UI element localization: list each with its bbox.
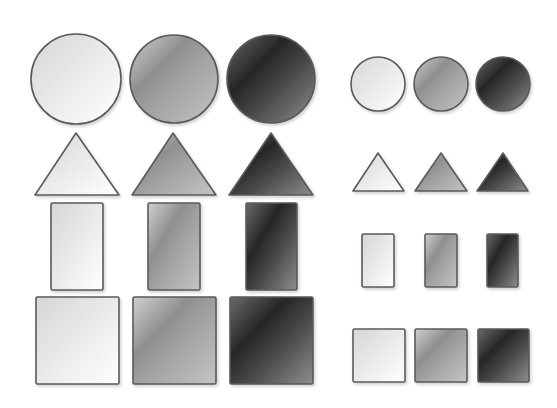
light-triangle-shape [353, 153, 404, 191]
light-rectangle-shape [51, 203, 103, 290]
dark-square-shape [230, 297, 313, 384]
medium-square-shape [415, 329, 467, 382]
medium-rectangle-shape [425, 234, 457, 287]
dark-rectangle-shape [487, 234, 518, 287]
light-square-shape [36, 297, 119, 384]
medium-triangle-shape [415, 153, 467, 191]
dark-triangle-shape [477, 153, 528, 191]
small-shapes-group [351, 57, 530, 382]
light-circle-shape [31, 34, 121, 124]
light-square-shape [353, 329, 405, 382]
light-triangle-shape [35, 133, 119, 195]
medium-circle-shape [130, 35, 218, 123]
light-rectangle-shape [362, 234, 394, 287]
medium-rectangle-shape [148, 203, 200, 290]
shapes-canvas [0, 0, 557, 408]
medium-triangle-shape [132, 133, 216, 195]
dark-square-shape [478, 329, 529, 382]
dark-rectangle-shape [246, 203, 297, 290]
large-shapes-group [31, 34, 315, 384]
dark-triangle-shape [229, 133, 313, 195]
shapes-illustration [0, 0, 557, 408]
medium-square-shape [133, 297, 216, 384]
dark-circle-shape [227, 35, 315, 123]
dark-circle-shape [476, 57, 530, 111]
medium-circle-shape [414, 57, 468, 111]
light-circle-shape [351, 57, 405, 111]
